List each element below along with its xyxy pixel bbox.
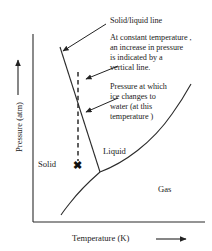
start-point-x-marker: ✖ bbox=[73, 159, 82, 172]
annotation-line: Pressure at which bbox=[110, 82, 167, 92]
x-axis-label: Temperature (K) bbox=[72, 233, 129, 243]
y-axis-label-wrapper: Pressure (atm) bbox=[8, 92, 26, 162]
annotation-line: vertical line. bbox=[110, 63, 192, 73]
annotation-line: Solid/liquid line bbox=[110, 16, 162, 26]
fusion-curve bbox=[60, 47, 100, 172]
annotation-line: water (at this bbox=[110, 102, 167, 112]
annotation-constant-temperature: At constant temperature , an increase in… bbox=[110, 33, 192, 73]
annotation-line: temperature ) bbox=[110, 112, 167, 122]
annotation-line: an increase in pressure bbox=[110, 43, 192, 53]
region-label-liquid: Liquid bbox=[103, 146, 126, 156]
y-axis-label: Pressure (atm) bbox=[14, 102, 24, 152]
region-label-solid: Solid bbox=[38, 159, 56, 169]
sublimation-curve bbox=[61, 172, 100, 215]
annotation-solid-liquid-line: Solid/liquid line bbox=[110, 16, 162, 26]
annotation-line: is indicated by a bbox=[110, 53, 192, 63]
leader-arrow-solid-liquid bbox=[63, 24, 106, 51]
region-label-gas: Gas bbox=[158, 184, 171, 194]
annotation-ice-to-water: Pressure at which ice changes to water (… bbox=[110, 82, 167, 122]
annotation-line: ice changes to bbox=[110, 92, 167, 102]
phase-diagram-figure: Solid/liquid line At constant temperatur… bbox=[0, 0, 212, 251]
annotation-line: At constant temperature , bbox=[110, 33, 192, 43]
